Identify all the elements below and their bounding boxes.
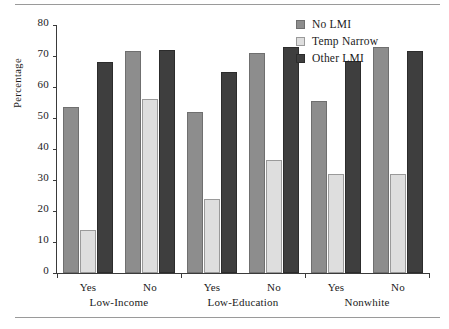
legend-item-temp-narrow[interactable]: Temp Narrow <box>296 33 378 50</box>
bottom-rule <box>15 317 440 318</box>
legend-label-no-lmi: No LMI <box>312 18 351 31</box>
bar <box>390 174 406 273</box>
bar <box>80 230 96 273</box>
bar <box>373 47 389 273</box>
x-axis-category-label: Yes <box>204 281 221 293</box>
bar <box>63 107 79 273</box>
x-axis-group-label: Low-Education <box>207 296 278 308</box>
x-axis-group-tick <box>305 273 306 278</box>
x-axis-category-label: Yes <box>328 281 345 293</box>
x-axis-category-label: No <box>267 281 281 293</box>
y-axis-tick-label: 20 <box>38 203 49 214</box>
y-axis-tick-label: 70 <box>38 48 49 59</box>
legend-swatch-temp-narrow <box>296 37 305 46</box>
x-axis-category-label: No <box>143 281 157 293</box>
y-axis-tick-mark <box>53 87 57 88</box>
y-axis-tick-label: 80 <box>38 17 49 28</box>
x-axis-group-label: Low-Income <box>90 296 149 308</box>
y-axis-title: Percentage <box>12 58 23 108</box>
bar <box>187 112 203 273</box>
legend-label-other-lmi: Other LMI <box>312 52 364 65</box>
bar <box>142 99 158 273</box>
bar <box>204 199 220 273</box>
bar <box>159 50 175 273</box>
top-rule <box>15 4 440 5</box>
legend-item-other-lmi[interactable]: Other LMI <box>296 50 378 67</box>
y-axis-tick-mark <box>53 56 57 57</box>
x-axis-line <box>56 273 429 274</box>
x-axis-category-label: No <box>391 281 405 293</box>
bar <box>311 101 327 273</box>
x-axis-category-label: Yes <box>80 281 97 293</box>
bar <box>345 61 361 273</box>
y-axis-tick-label: 40 <box>38 141 49 152</box>
y-axis-tick-label: 0 <box>43 265 49 276</box>
bar <box>328 174 344 273</box>
legend-item-no-lmi[interactable]: No LMI <box>296 16 378 33</box>
bar <box>283 47 299 273</box>
bar <box>97 62 113 273</box>
bar <box>221 72 237 274</box>
y-axis-tick-label: 10 <box>38 234 49 245</box>
y-axis-tick-mark <box>53 242 57 243</box>
y-axis-tick-mark <box>53 211 57 212</box>
y-axis-tick-mark <box>53 149 57 150</box>
y-axis-tick-label: 60 <box>38 79 49 90</box>
legend-swatch-no-lmi <box>296 20 305 29</box>
legend-label-temp-narrow: Temp Narrow <box>312 35 378 48</box>
legend-swatch-other-lmi <box>296 54 305 63</box>
x-axis-group-tick <box>57 273 58 278</box>
y-axis-tick-label: 50 <box>38 110 49 121</box>
x-axis-group-tick <box>429 273 430 278</box>
y-axis-tick-mark <box>53 180 57 181</box>
bar <box>249 53 265 273</box>
chart-legend: No LMI Temp Narrow Other LMI <box>296 16 378 67</box>
x-axis-group-tick <box>181 273 182 278</box>
y-axis-tick-mark <box>53 118 57 119</box>
figure-container: Percentage 01020304050607080 YesNoYesNoY… <box>0 0 449 329</box>
bar <box>407 51 423 273</box>
x-axis-group-label: Nonwhite <box>345 296 390 308</box>
bar <box>266 160 282 273</box>
y-axis-tick-mark <box>53 25 57 26</box>
bar <box>125 51 141 273</box>
y-axis-tick-label: 30 <box>38 172 49 183</box>
